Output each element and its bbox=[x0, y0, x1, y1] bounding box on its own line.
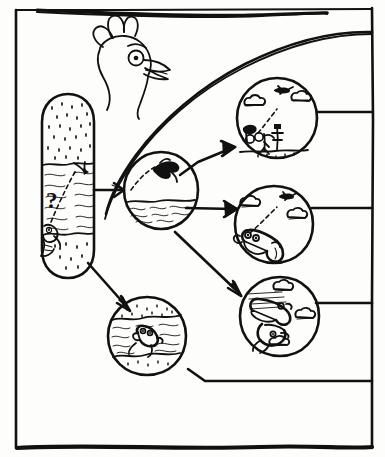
arrow-center-to-upper-right bbox=[180, 140, 237, 175]
swim-water-ripples bbox=[112, 324, 180, 354]
capsule-stipple-top bbox=[47, 102, 91, 160]
chicken-head bbox=[93, 16, 170, 119]
leaping-creature bbox=[153, 159, 179, 182]
swim-creature bbox=[129, 326, 163, 357]
scene-glide bbox=[234, 186, 313, 263]
launch-figures bbox=[243, 124, 283, 154]
glide-plane bbox=[279, 192, 297, 200]
scene-swim bbox=[108, 297, 186, 375]
capsule-stipple-bottom bbox=[54, 242, 88, 270]
glide-clouds bbox=[240, 196, 307, 219]
scene-diving bbox=[124, 152, 198, 229]
arrow-center-to-lower-right bbox=[175, 232, 243, 297]
swim-stipple-bottom bbox=[127, 360, 169, 367]
launch-trajectory bbox=[258, 109, 277, 133]
origin-capsule: ? bbox=[41, 94, 94, 278]
launch-plane bbox=[274, 86, 293, 94]
scene-flight bbox=[240, 277, 319, 356]
scene-launch bbox=[237, 78, 317, 159]
diving-trajectory bbox=[131, 167, 155, 190]
capsule-question-mark: ? bbox=[46, 188, 58, 213]
launch-clouds bbox=[244, 91, 311, 106]
capsule-creature bbox=[41, 225, 60, 256]
figure-root: ? bbox=[0, 0, 385, 457]
diagram-canvas: ? bbox=[0, 0, 385, 457]
top-rule bbox=[37, 10, 327, 17]
